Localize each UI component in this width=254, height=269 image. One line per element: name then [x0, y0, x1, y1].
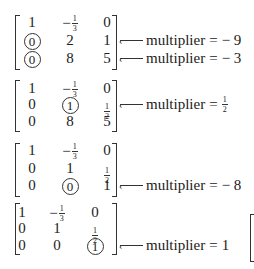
matrix-cell: 1	[22, 15, 42, 30]
matrix-cell: −13	[60, 81, 80, 98]
equals-sign: =	[209, 50, 217, 67]
pivot-entry-circled: 1	[87, 238, 104, 255]
left-arrow-icon: ‹	[119, 241, 143, 251]
minus-sign: −	[62, 16, 70, 31]
matrix-entry: 5	[103, 50, 111, 66]
matrix-cell: 0	[12, 238, 32, 253]
matrix-cell: 0	[97, 15, 117, 30]
multiplier-annotation: ‹multiplier=− 9	[119, 32, 241, 49]
matrix-entry: 5	[103, 113, 111, 129]
equals-sign: =	[209, 96, 217, 113]
matrix-entry: 0	[28, 113, 36, 129]
multiplier-label: multiplier	[146, 177, 205, 194]
fraction-numerator: 1	[73, 81, 77, 88]
equals-sign: =	[209, 177, 217, 194]
matrix-entry: 1	[66, 160, 74, 176]
matrix-entry: 0	[53, 237, 61, 253]
multiplier-annotation: ‹multiplier=− 3	[119, 50, 241, 67]
fraction: 13	[72, 81, 78, 98]
matrix-entry: −13	[62, 143, 77, 160]
matrix-entry: 0	[18, 220, 26, 236]
fraction-numerator: 1	[73, 15, 77, 22]
fraction-denominator: 3	[73, 153, 77, 160]
multiplier-value: − 8	[222, 177, 242, 194]
fraction-numerator: 1	[223, 96, 227, 103]
arrow-shaft	[120, 245, 143, 246]
matrix-entry: 1	[103, 177, 111, 193]
matrix-cell: 0	[22, 161, 42, 176]
matrix-entry: 2	[66, 32, 74, 48]
matrix-cell: 0	[97, 81, 117, 96]
fraction: 13	[72, 15, 78, 32]
matrix-cell: 1	[22, 143, 42, 158]
arrow-shaft	[120, 104, 143, 105]
left-arrow-icon: ‹	[119, 181, 143, 191]
matrix-entry: −13	[62, 81, 77, 98]
matrix-cell: 1	[97, 33, 117, 48]
matrix-entry: 1	[28, 142, 36, 158]
pivot-entry-circled: 1	[62, 97, 79, 114]
matrix-cell: 0	[12, 221, 32, 236]
matrix-cell: 8	[60, 51, 80, 66]
matrix-cell: 0	[85, 205, 105, 220]
arrow-shaft	[120, 40, 143, 41]
matrix-entry: 1	[103, 32, 111, 48]
multiplier-value: 1	[222, 237, 230, 254]
multiplier-label: multiplier	[146, 32, 205, 49]
matrix-entry: 1	[28, 14, 36, 30]
matrix-entry: 1	[28, 80, 36, 96]
fraction-numerator: 1	[105, 103, 109, 110]
pivot-entry-circled: 0	[24, 51, 41, 68]
matrix-entry: 0	[103, 80, 111, 96]
matrix-entry: 0	[28, 160, 36, 176]
matrix-entry: −13	[62, 15, 77, 32]
matrix-cell: 1	[12, 205, 32, 220]
matrix-cell: 0	[97, 143, 117, 158]
fraction-numerator: 1	[93, 227, 97, 234]
arrow-shaft	[120, 58, 143, 59]
matrix-cell: 1	[22, 81, 42, 96]
fraction-numerator: 1	[60, 205, 64, 212]
minus-sign: −	[49, 206, 57, 221]
matrix-cell: 1	[85, 238, 105, 255]
pivot-entry-circled: 0	[24, 33, 41, 50]
multiplier-value: − 3	[222, 50, 242, 67]
matrix-cell: 1	[47, 221, 67, 236]
multiplier-label: multiplier	[146, 237, 205, 254]
matrix-cell: 0	[22, 33, 42, 50]
matrix-entry: 0	[28, 96, 36, 112]
fraction-numerator: 1	[73, 143, 77, 150]
left-arrow-icon: ‹	[119, 54, 143, 64]
matrix-cell: 5	[97, 51, 117, 66]
fraction-numerator: 1	[105, 167, 109, 174]
matrix-cell: 1	[60, 161, 80, 176]
matrix-entry: 8	[66, 113, 74, 129]
matrix-cell: 0	[22, 97, 42, 112]
matrix-entry: 1	[53, 220, 61, 236]
matrix-entry: 0	[28, 177, 36, 193]
minus-sign: −	[62, 144, 70, 159]
matrix-cell: 0	[60, 178, 80, 195]
matrix-left-bracket	[15, 143, 20, 197]
left-arrow-icon: ‹	[119, 36, 143, 46]
matrix-left-bracket	[15, 15, 20, 70]
matrix-right-bracket	[112, 203, 117, 255]
partial-matrix-left-bracket	[250, 214, 254, 262]
matrix-cell: 0	[47, 238, 67, 253]
matrix-entry: 0	[103, 14, 111, 30]
fraction: 12	[222, 96, 228, 113]
matrix-entry: 0	[103, 142, 111, 158]
multiplier-annotation: ‹multiplier=1	[119, 237, 229, 254]
matrix-cell: −13	[60, 143, 80, 160]
left-arrow-icon: ‹	[119, 100, 143, 110]
matrix-cell: 2	[60, 33, 80, 48]
multiplier-value: − 9	[222, 32, 242, 49]
matrix-left-bracket	[15, 80, 20, 132]
fraction-denominator: 3	[73, 25, 77, 32]
equals-sign: =	[209, 237, 217, 254]
multiplier-annotation: ‹multiplier=12	[119, 96, 228, 113]
minus-sign: −	[62, 82, 70, 97]
matrix-cell: 1	[97, 178, 117, 193]
matrix-cell: −13	[60, 15, 80, 32]
multiplier-label: multiplier	[146, 96, 205, 113]
